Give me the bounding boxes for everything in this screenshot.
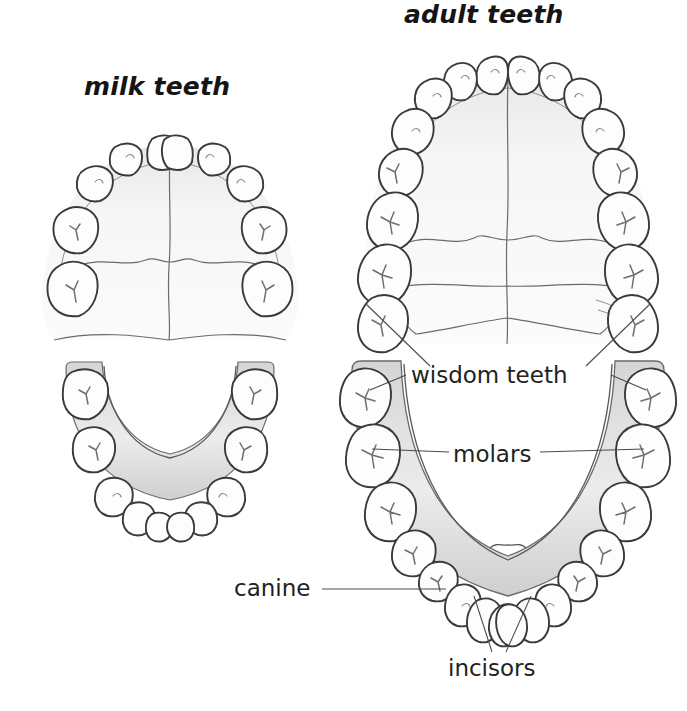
label-canine: canine xyxy=(234,575,310,601)
heading-milk-teeth: milk teeth xyxy=(84,72,230,101)
arch-milk-upper xyxy=(42,135,298,340)
label-incisors: incisors xyxy=(448,655,536,681)
dental-illustration xyxy=(0,0,687,711)
heading-adult-teeth: adult teeth xyxy=(404,0,564,29)
arch-adult-lower xyxy=(340,361,676,646)
label-molars: molars xyxy=(453,441,531,467)
arch-adult-upper xyxy=(358,57,658,353)
dental-diagram: milk teeth adult teeth wisdom teeth mola… xyxy=(0,0,687,711)
label-wisdom-teeth: wisdom teeth xyxy=(411,362,568,388)
arch-milk-lower xyxy=(63,362,277,542)
